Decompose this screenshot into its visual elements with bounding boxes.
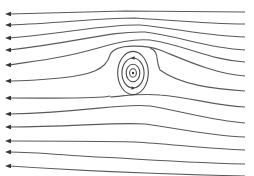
rotation-arrow-icon [132, 86, 136, 90]
arrow-left-icon [5, 164, 11, 168]
streamline [110, 94, 245, 107]
streamline [9, 25, 245, 38]
arrow-left-icon [5, 150, 11, 154]
arrow-left-icon [5, 125, 11, 129]
arrow-left-icon [5, 12, 11, 16]
streamline [150, 48, 245, 91]
arrow-left-icon [5, 112, 11, 116]
streamline-plot [0, 0, 254, 176]
streamline [9, 124, 245, 137]
vortex-center [132, 72, 134, 74]
streamline [9, 40, 245, 65]
arrow-left-icon [5, 48, 11, 52]
arrow-left-icon [5, 23, 11, 27]
arrow-left-icon [5, 96, 11, 100]
streamline [9, 96, 110, 98]
streamline [9, 18, 245, 25]
arrow-left-icon [5, 36, 11, 40]
streamline [9, 11, 245, 14]
streamline [9, 152, 245, 164]
arrowheads-group [5, 12, 11, 168]
streamline [9, 166, 245, 176]
streamline [9, 141, 245, 150]
arrow-left-icon [5, 63, 11, 67]
arrow-left-icon [5, 139, 11, 143]
streamline [9, 105, 245, 123]
rotation-arrow-icon [131, 56, 135, 60]
vortex-group [118, 51, 149, 94]
streamline-diagram: Streamlines of uniform flow past a vorte… [0, 0, 254, 176]
arrow-left-icon [5, 79, 11, 83]
